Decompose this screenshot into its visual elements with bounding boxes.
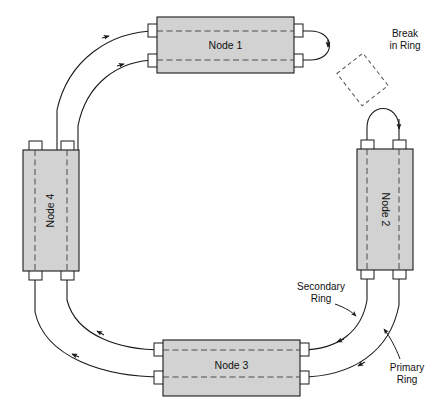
primary-ring-leader xyxy=(384,329,400,359)
annotation-break-in-ring: Break in Ring xyxy=(389,28,420,51)
break-in-ring-marker xyxy=(337,53,388,106)
node-4-label: Node 4 xyxy=(44,193,56,227)
annotation-primary-ring: Primary Ring xyxy=(384,329,424,385)
node-2-label: Node 2 xyxy=(380,193,392,227)
secondary-ring-line-1: Secondary xyxy=(297,281,345,292)
fddi-ring-diagram: Node 1 Node 2 Node 3 xyxy=(0,0,443,413)
ring-segment-node4-to-node3-outer xyxy=(35,271,163,377)
primary-ring-line-2: Ring xyxy=(397,374,418,385)
diagram-canvas: Node 1 Node 2 Node 3 xyxy=(0,0,443,413)
ring-segment-node4-to-node3-inner xyxy=(67,271,163,350)
node-1-label: Node 1 xyxy=(209,39,243,51)
break-in-ring-line-2: in Ring xyxy=(389,40,420,51)
ring-segment-node1-to-node4-outer xyxy=(57,31,157,150)
node-3-label: Node 3 xyxy=(215,359,249,371)
ring-segment-node1-to-node4-inner xyxy=(78,60,157,150)
node-3[interactable]: Node 3 xyxy=(154,340,309,396)
break-in-ring-line-1: Break xyxy=(392,28,419,39)
secondary-ring-line-2: Ring xyxy=(311,293,332,304)
node-2[interactable]: Node 2 xyxy=(357,140,413,279)
annotation-secondary-ring: Secondary Ring xyxy=(297,281,356,316)
secondary-ring-leader xyxy=(335,304,356,316)
primary-ring-line-1: Primary xyxy=(390,362,424,373)
node-4[interactable]: Node 4 xyxy=(23,141,79,280)
node-1[interactable]: Node 1 xyxy=(148,17,303,73)
